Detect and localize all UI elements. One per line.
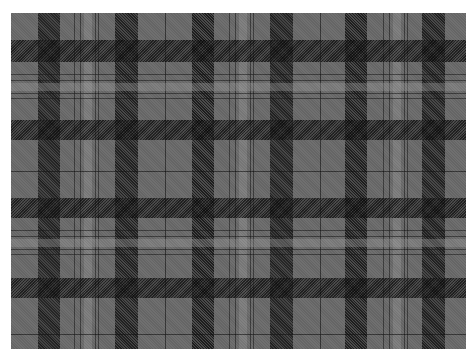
vertical-pinstripe [80,13,81,349]
vertical-pinstripe [95,13,96,349]
horizontal-dark-band [11,198,466,218]
horizontal-thin-line [11,334,466,335]
vertical-thin-line [320,13,321,349]
tartan-fabric-image [11,13,466,349]
vertical-dark-band [422,13,445,349]
vertical-pinstripe [235,13,236,349]
horizontal-light-band [11,83,466,91]
vertical-dark-band [270,13,293,349]
horizontal-dark-band [11,278,466,298]
horizontal-pinstripe [11,93,466,94]
horizontal-light-band [11,239,466,247]
vertical-light-band [239,13,247,349]
vertical-thin-line [165,13,166,349]
horizontal-pinstripe [11,254,466,255]
horizontal-pinstripe [11,230,466,231]
vertical-dark-band [345,13,367,349]
vertical-dark-band [192,13,214,349]
vertical-pinstripe [250,13,251,349]
horizontal-dark-band [11,120,466,140]
vertical-pinstripe [229,13,230,349]
vertical-light-band [84,13,92,349]
horizontal-dark-band [11,40,466,62]
vertical-pinstripe [407,13,408,349]
vertical-pinstripe [98,13,99,349]
vertical-pinstripe [383,13,384,349]
vertical-dark-band [115,13,138,349]
vertical-pinstripe [253,13,254,349]
horizontal-pinstripe [11,236,466,237]
horizontal-pinstripe [11,74,466,75]
vertical-pinstripe [74,13,75,349]
vertical-pinstripe [389,13,390,349]
horizontal-pinstripe [11,98,466,99]
horizontal-pinstripe [11,249,466,250]
vertical-pinstripe [404,13,405,349]
horizontal-thin-line [11,171,466,172]
horizontal-pinstripe [11,80,466,81]
vertical-light-band [393,13,401,349]
vertical-dark-band [38,13,60,349]
